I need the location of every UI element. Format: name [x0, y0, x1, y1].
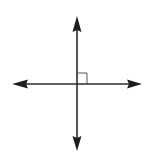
right-angle-marker — [77, 73, 87, 84]
diagram-canvas — [0, 0, 152, 160]
perpendicular-lines-diagram — [0, 0, 152, 160]
arrow-right-icon — [127, 80, 142, 89]
arrow-down-icon — [73, 136, 82, 151]
arrow-left-icon — [12, 80, 28, 89]
arrow-up-icon — [73, 16, 82, 32]
